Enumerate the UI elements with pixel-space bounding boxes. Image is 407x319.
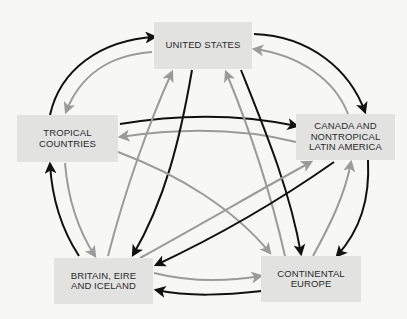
- arrow-tropical-to-us: [50, 37, 155, 115]
- arrow-tropical-to-britain: [65, 163, 95, 256]
- node-label: CONTINENTAL EUROPE: [277, 269, 344, 290]
- arrow-canada-to-europe: [337, 160, 368, 256]
- node-tropical-countries: TROPICAL COUNTRIES: [17, 115, 118, 162]
- trade-flow-diagram: UNITED STATES TROPICAL COUNTRIES CANADA …: [0, 0, 407, 319]
- node-label: BRITAIN, EIRE AND ICELAND: [71, 271, 137, 292]
- node-continental-europe: CONTINENTAL EUROPE: [261, 256, 361, 302]
- arrow-britain-to-canada: [140, 162, 311, 258]
- arrow-canada-to-britain: [156, 162, 334, 265]
- node-united-states: UNITED STATES: [154, 22, 252, 69]
- arrow-us-to-tropical: [66, 52, 152, 112]
- node-britain-eire-iceland: BRITAIN, EIRE AND ICELAND: [54, 258, 153, 304]
- node-label: TROPICAL COUNTRIES: [39, 128, 96, 149]
- node-label: UNITED STATES: [166, 40, 241, 51]
- node-canada-latin-america: CANADA AND NONTROPICAL LATIN AMERICA: [296, 114, 395, 160]
- arrow-europe-to-canada: [313, 162, 351, 256]
- arrow-canada-to-us: [254, 49, 348, 114]
- arrow-europe-to-britain: [156, 290, 262, 295]
- arrow-tropical-to-canada: [120, 117, 297, 126]
- arrow-tropical-to-europe: [118, 152, 270, 253]
- arrow-us-to-canada: [254, 34, 365, 112]
- node-label: CANADA AND NONTROPICAL LATIN AMERICA: [309, 121, 382, 153]
- arrow-us-to-europe: [241, 70, 301, 254]
- arrow-britain-to-europe: [154, 273, 261, 280]
- arrow-britain-to-us: [108, 72, 172, 256]
